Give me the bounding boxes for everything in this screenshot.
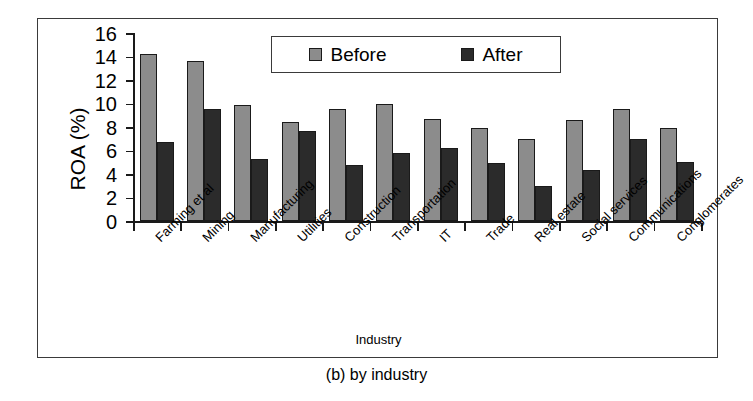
y-tick-mark: 2 <box>126 198 133 200</box>
bar-before <box>234 105 251 221</box>
bar-after <box>157 142 174 221</box>
y-tick-mark: 4 <box>126 174 133 176</box>
bar-group <box>234 33 268 221</box>
y-tick-label: 16 <box>95 24 117 44</box>
legend-swatch-before-icon <box>309 48 322 61</box>
bar-group <box>140 33 174 221</box>
bar-after <box>251 159 268 221</box>
y-tick-label: 14 <box>95 47 117 67</box>
y-tick-label: 10 <box>95 94 117 114</box>
bar-after <box>488 163 505 221</box>
bar-before <box>329 109 346 221</box>
bar-before <box>140 54 157 221</box>
y-tick-mark: 6 <box>126 151 133 153</box>
bar-after <box>299 131 316 221</box>
x-tick-mark <box>133 223 135 231</box>
y-tick-label: 2 <box>106 188 117 208</box>
y-tick-mark: 0 <box>126 221 133 223</box>
legend-entry-after: After <box>461 45 522 64</box>
y-tick-label: 4 <box>106 165 117 185</box>
y-tick-label: 0 <box>106 212 117 232</box>
legend-entry-before: Before <box>309 45 386 64</box>
x-tick-label: IT <box>437 227 454 244</box>
legend-label-after: After <box>482 45 522 64</box>
y-tick-mark: 14 <box>126 57 133 59</box>
y-axis-title: ROA (%) <box>66 79 90 219</box>
y-tick-mark: 10 <box>126 104 133 106</box>
bar-after <box>346 165 363 221</box>
chart-legend: Before After <box>271 36 561 73</box>
y-tick-mark: 12 <box>126 80 133 82</box>
x-tick-mark <box>464 223 466 231</box>
bar-before <box>471 128 488 221</box>
figure: ROA (%) 0246810121416 Farming et alMinin… <box>0 0 753 401</box>
x-axis-title: Industry <box>38 332 719 347</box>
y-tick-mark: 8 <box>126 127 133 129</box>
figure-caption: (b) by industry <box>0 366 753 384</box>
y-tick-label: 6 <box>106 141 117 161</box>
bar-after <box>204 109 221 221</box>
chart-frame: ROA (%) 0246810121416 Farming et alMinin… <box>37 18 718 358</box>
y-tick-label: 12 <box>95 71 117 91</box>
legend-swatch-after-icon <box>461 48 474 61</box>
y-tick-mark: 16 <box>126 33 133 35</box>
y-tick-label: 8 <box>106 118 117 138</box>
y-axis-line <box>133 33 135 223</box>
bar-before <box>518 139 535 221</box>
legend-label-before: Before <box>330 45 386 64</box>
